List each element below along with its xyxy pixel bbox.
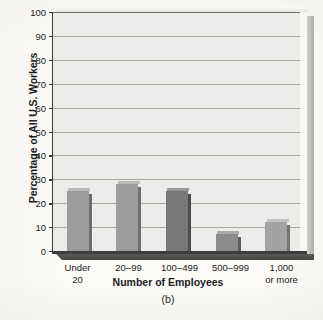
chart-floor-front bbox=[56, 254, 314, 260]
x-axis-tick-label-line1: 20–99 bbox=[115, 262, 141, 273]
bar-side-3d bbox=[287, 225, 290, 251]
bar[interactable] bbox=[116, 184, 138, 251]
y-axis-tick-label: 10 bbox=[35, 222, 46, 233]
y-axis-tick-label: 50 bbox=[35, 126, 46, 137]
y-axis-tick-label: 100 bbox=[30, 7, 46, 18]
y-axis-tick-label: 80 bbox=[35, 54, 46, 65]
y-axis-tick-label: 60 bbox=[35, 102, 46, 113]
figure-caption: (b) bbox=[52, 293, 284, 305]
bar-slot bbox=[251, 12, 301, 251]
bar-side-3d bbox=[138, 187, 141, 251]
x-axis-tick-label-line1: Under bbox=[65, 262, 91, 273]
plot-3d-right-edge bbox=[307, 16, 314, 255]
x-axis-tick-label-line1: 100–499 bbox=[161, 262, 198, 273]
bar-top-3d bbox=[68, 188, 90, 191]
bar-side-3d bbox=[89, 194, 92, 251]
x-axis-tick-label-line1: 500–999 bbox=[212, 262, 249, 273]
bar-slot bbox=[202, 12, 252, 251]
bar-face bbox=[67, 191, 89, 251]
y-axis-tick-label: 40 bbox=[35, 150, 46, 161]
bar[interactable] bbox=[216, 234, 238, 251]
bar-face bbox=[216, 234, 238, 251]
bar-slot bbox=[53, 12, 103, 251]
bar-slot bbox=[103, 12, 153, 251]
y-axis-tick-label: 20 bbox=[35, 198, 46, 209]
y-axis-tick-label: 70 bbox=[35, 78, 46, 89]
bar-side-3d bbox=[188, 194, 191, 251]
y-axis-tick-label: 30 bbox=[35, 174, 46, 185]
bar[interactable] bbox=[166, 191, 188, 251]
bar-face bbox=[166, 191, 188, 251]
y-axis-tick-label: 90 bbox=[35, 30, 46, 41]
figure-container: Percentage of All U.S. Workers 010203040… bbox=[0, 0, 323, 320]
bar-slot bbox=[152, 12, 202, 251]
x-axis-title: Number of Employees bbox=[52, 276, 284, 288]
x-axis-tick-label-line1: 1,000 bbox=[270, 262, 294, 273]
bar-face bbox=[265, 222, 287, 251]
bar-top-3d bbox=[217, 231, 239, 234]
bar-top-3d bbox=[167, 188, 189, 191]
plot-area-wrapper: 0102030405060708090100 bbox=[52, 12, 307, 255]
bar-top-3d bbox=[118, 181, 140, 184]
bar-side-3d bbox=[238, 237, 241, 251]
y-axis-tick-label: 0 bbox=[41, 246, 46, 257]
bar-face bbox=[116, 184, 138, 251]
chart-floor-3d bbox=[52, 251, 314, 260]
bar-top-3d bbox=[267, 219, 289, 222]
plot-area: 0102030405060708090100 bbox=[52, 12, 300, 251]
chart-floor-top bbox=[52, 251, 307, 254]
bars-group bbox=[53, 12, 301, 251]
bar[interactable] bbox=[67, 191, 89, 251]
bar[interactable] bbox=[265, 222, 287, 251]
